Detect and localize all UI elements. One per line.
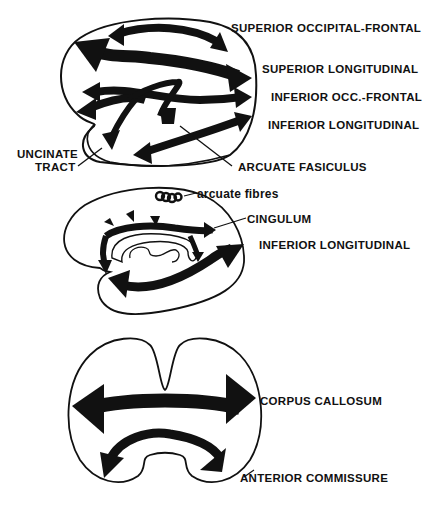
arcuate-fibres-leader — [184, 193, 196, 196]
diagram-drawing — [0, 0, 446, 515]
anterior-commissure-tract — [100, 433, 226, 478]
label-superior-longitudinal: SUPERIOR LONGITUDINAL — [262, 64, 418, 76]
label-arcuate-fibres: arcuate fibres — [197, 188, 279, 200]
medial-inferior-longitudinal-tract — [108, 244, 244, 298]
uncinate-tract — [102, 100, 135, 150]
label-inferior-occ-frontal: INFERIOR OCC.-FRONTAL — [271, 92, 422, 104]
medial-view-panel — [64, 188, 246, 314]
corpus-callosum-tract — [72, 374, 256, 434]
superior-occipital-frontal-tract — [108, 24, 228, 52]
label-uncinate-line2: TRACT — [35, 162, 75, 174]
label-uncinate-line1: UNCINATE — [17, 149, 78, 161]
label-inferior-longitudinal-lateral: INFERIOR LONGITUDINAL — [268, 120, 419, 132]
coronal-view-panel — [69, 338, 262, 482]
label-inferior-longitudinal-medial: INFERIOR LONGITUDINAL — [259, 240, 410, 252]
label-arcuate-fasiculus: ARCUATE FASICULUS — [238, 162, 367, 174]
inferior-longitudinal-tract — [133, 112, 252, 164]
arcuate-fibres-loops — [156, 192, 182, 202]
label-corpus-callosum: CORPUS CALLOSUM — [260, 396, 382, 408]
arcuate-fasciculus-tract — [130, 82, 179, 124]
lateral-view-panel — [61, 19, 256, 167]
fornix-curve — [130, 247, 179, 262]
label-cingulum: CINGULUM — [247, 214, 311, 226]
white-matter-tracts-figure: SUPERIOR OCCIPITAL-FRONTAL SUPERIOR LONG… — [0, 0, 446, 515]
label-superior-occipital-frontal: SUPERIOR OCCIPITAL-FRONTAL — [231, 23, 421, 35]
cingulum-leader-line — [214, 218, 246, 228]
corpus-callosum-medial — [112, 234, 197, 262]
label-anterior-commissure: ANTERIOR COMMISSURE — [240, 473, 388, 485]
